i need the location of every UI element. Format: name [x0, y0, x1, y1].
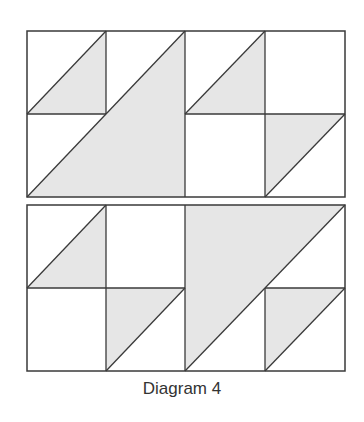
bottom-block	[27, 205, 345, 371]
diagram-caption: Diagram 4	[0, 379, 364, 399]
quilt-diagram	[0, 0, 364, 422]
top-block	[27, 31, 345, 197]
